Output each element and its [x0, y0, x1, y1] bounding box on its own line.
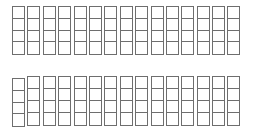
grid-cell [90, 31, 101, 43]
grid-cell [90, 7, 101, 19]
grid-cell [136, 89, 147, 101]
grid-cell [213, 42, 224, 54]
grid-cell [152, 19, 163, 31]
grid-cell [136, 77, 147, 89]
grid-cell [44, 77, 55, 89]
grid-cell [59, 113, 70, 125]
grid-cell [90, 19, 101, 31]
grid-cell [167, 89, 178, 101]
grid-column [12, 6, 25, 55]
grid-column [151, 76, 164, 126]
grid-column [166, 76, 179, 126]
grid-cell [213, 101, 224, 113]
grid-column [12, 78, 25, 127]
grid-column [120, 6, 133, 55]
grid-cell [59, 7, 70, 19]
grid-cell [136, 19, 147, 31]
grid-cell [75, 101, 86, 113]
grid-column [89, 6, 102, 55]
grid-cell [28, 113, 39, 125]
grid-cell [105, 7, 116, 19]
grid-cell [182, 113, 193, 125]
grid-cell [152, 113, 163, 125]
grid-cell [167, 31, 178, 43]
grid-cell [13, 103, 24, 115]
grid-cell [228, 19, 239, 31]
grid-cell [59, 101, 70, 113]
grid-column [212, 76, 225, 126]
grid-cell [213, 89, 224, 101]
grid-column [135, 6, 148, 55]
grid-cell [90, 77, 101, 89]
bottom-grid [12, 76, 240, 127]
grid-cell [167, 19, 178, 31]
top-grid [12, 6, 240, 55]
grid-cell [167, 77, 178, 89]
grid-column [27, 6, 40, 55]
grid-column [135, 76, 148, 126]
grid-cell [182, 31, 193, 43]
grid-cell [59, 19, 70, 31]
grid-column [43, 76, 56, 126]
grid-cell [44, 101, 55, 113]
grid-cell [13, 42, 24, 54]
grid-cell [182, 101, 193, 113]
grid-cell [152, 89, 163, 101]
grid-column [181, 76, 194, 126]
grid-cell [121, 113, 132, 125]
grid-cell [228, 101, 239, 113]
grid-cell [59, 31, 70, 43]
grid-cell [228, 89, 239, 101]
grid-cell [213, 19, 224, 31]
grid-cell [198, 19, 209, 31]
grid-cell [198, 42, 209, 54]
grid-cell [59, 89, 70, 101]
grid-cell [121, 42, 132, 54]
grid-cell [121, 19, 132, 31]
grid-cell [28, 77, 39, 89]
grid-column [227, 76, 240, 126]
grid-column [74, 6, 87, 55]
grid-cell [136, 7, 147, 19]
grid-cell [136, 113, 147, 125]
grid-column [104, 6, 117, 55]
grid-cell [167, 113, 178, 125]
grid-cell [13, 7, 24, 19]
grid-cell [167, 42, 178, 54]
grid-column [197, 6, 210, 55]
grid-cell [28, 42, 39, 54]
grid-cell [90, 89, 101, 101]
grid-column [58, 6, 71, 55]
grid-cell [228, 7, 239, 19]
grid-cell [44, 42, 55, 54]
grid-cell [152, 77, 163, 89]
grid-cell [75, 42, 86, 54]
grid-cell [13, 79, 24, 91]
grid-cell [105, 19, 116, 31]
grid-cell [152, 42, 163, 54]
grid-cell [228, 42, 239, 54]
grid-cell [198, 31, 209, 43]
grid-cell [198, 101, 209, 113]
grid-cell [182, 7, 193, 19]
grid-cell [105, 42, 116, 54]
grid-cell [13, 114, 24, 126]
grid-cell [75, 77, 86, 89]
grid-cell [28, 19, 39, 31]
grid-cell [44, 113, 55, 125]
grid-cell [121, 7, 132, 19]
grid-cell [59, 42, 70, 54]
grid-cell [213, 113, 224, 125]
grid-cell [182, 89, 193, 101]
grid-cell [198, 113, 209, 125]
grid-column [166, 6, 179, 55]
grid-cell [121, 101, 132, 113]
grid-cell [228, 113, 239, 125]
grid-cell [152, 101, 163, 113]
grid-column [104, 76, 117, 126]
grid-cell [44, 7, 55, 19]
grid-cell [167, 101, 178, 113]
grid-cell [198, 89, 209, 101]
grid-cell [228, 77, 239, 89]
grid-cell [213, 77, 224, 89]
